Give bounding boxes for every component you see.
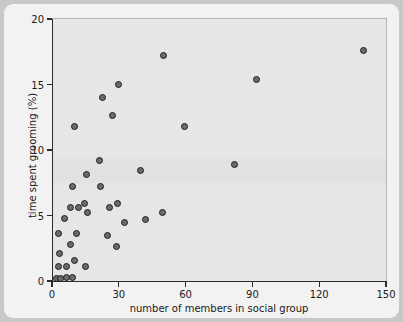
scatter-point [231,161,238,168]
scatter-point [61,215,68,222]
y-tick-mark [47,215,52,216]
x-tick-mark [185,282,186,287]
scatter-point [253,76,260,83]
x-tick-label: 30 [112,289,125,300]
scatter-point [360,47,367,54]
plot-frame-right [386,18,387,281]
y-tick-mark [47,84,52,85]
scatter-point [55,230,62,237]
scatter-point [181,123,188,130]
x-axis-title: number of members in social group [52,303,386,314]
x-tick-label: 60 [179,289,192,300]
scatter-point [71,123,78,130]
scatter-point [121,219,128,226]
x-tick-mark [319,282,320,287]
x-tick-mark [252,282,253,287]
x-tick-label: 90 [246,289,259,300]
y-tick-label: 20 [31,14,44,25]
y-tick-mark [47,280,52,281]
x-tick-label: 120 [310,289,329,300]
figure-root: 0306090120150 05101520 number of members… [0,0,403,322]
y-axis-title: time spent grooming (%) [27,76,38,236]
scatter-point [56,250,63,257]
plot-frame-top [52,18,387,19]
x-tick-mark [385,282,386,287]
scatter-point [63,263,70,270]
x-tick-mark [51,282,52,287]
x-tick-label: 150 [376,289,395,300]
x-tick-mark [118,282,119,287]
scatter-point [67,241,74,248]
scatter-point [71,257,78,264]
plot-area [52,19,387,282]
y-tick-label: 5 [38,210,44,221]
scatter-point [104,232,111,239]
scatter-point [69,274,76,281]
y-tick-label: 0 [38,276,44,287]
x-tick-label: 0 [49,289,55,300]
figure-card: 0306090120150 05101520 number of members… [4,4,399,318]
y-tick-mark [47,149,52,150]
y-tick-mark [47,18,52,19]
